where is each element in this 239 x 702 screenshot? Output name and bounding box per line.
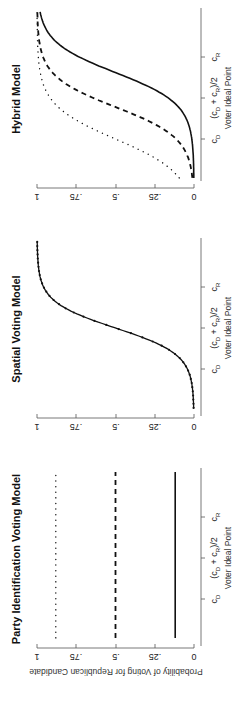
panel-hybrid: Hybrid Model 0 .25 .5 .75 1 cD (cD + cR)…	[10, 8, 233, 202]
data-point	[37, 262, 39, 264]
axis-title: Voter Ideal Point	[223, 296, 233, 359]
probability-axis-title: Probability of Voting for Republican Can…	[29, 667, 203, 677]
data-point	[174, 353, 176, 355]
data-point	[58, 303, 60, 305]
data-point	[141, 336, 143, 338]
data-point	[192, 390, 194, 392]
data-point	[187, 370, 189, 372]
data-point	[130, 332, 132, 334]
tick-label: .75	[70, 652, 83, 662]
data-point	[37, 253, 39, 255]
tick-label-cr: cR	[209, 512, 221, 522]
data-point	[191, 386, 193, 388]
tick-label: .25	[149, 192, 162, 202]
data-point	[45, 291, 47, 293]
data-point	[37, 266, 39, 268]
panel-party-identification: Party Identification Voting Model 0 .25 …	[10, 468, 233, 677]
data-point	[65, 307, 67, 309]
tick-label: 0	[191, 422, 196, 432]
plot-area	[36, 241, 195, 409]
tick-label: 0	[191, 652, 196, 662]
plot-area	[56, 472, 175, 638]
data-point	[37, 257, 39, 259]
panel-title: Party Identification Voting Model	[10, 474, 22, 644]
tick-label: .25	[149, 652, 162, 662]
voter-ideal-axis: cD (cD + cR)/2 cR Voter Ideal Point	[201, 8, 233, 181]
data-point	[189, 374, 191, 376]
data-point	[53, 299, 55, 301]
data-point	[152, 340, 154, 342]
data-point	[192, 403, 194, 405]
data-point	[168, 349, 170, 351]
data-point	[93, 320, 95, 322]
series-line-solid	[40, 12, 194, 178]
tick-label: .5	[112, 652, 120, 662]
tick-label: 1	[34, 422, 39, 432]
tick-label: 1	[34, 192, 39, 202]
panel-title: Spatial Voting Model	[10, 275, 22, 382]
data-point	[179, 357, 181, 359]
voter-ideal-axis: cD (cD + cR)/2 cR Voter Ideal Point	[201, 238, 233, 416]
data-point	[191, 382, 193, 384]
tick-label: .25	[149, 422, 162, 432]
data-point	[39, 274, 41, 276]
tick-label: .5	[112, 422, 120, 432]
tick-label-cd: cD	[209, 134, 221, 144]
data-point	[193, 407, 195, 409]
data-point	[73, 311, 75, 313]
tick-label-cr: cR	[209, 52, 221, 62]
tick-label-cd: cD	[209, 594, 221, 604]
tick-label: .5	[112, 192, 120, 202]
data-point	[40, 278, 42, 280]
series-line-dotted	[37, 12, 179, 178]
data-point	[161, 345, 163, 347]
panel-spatial: Spatial Voting Model 0 .25 .5 .75 1 cD (…	[10, 238, 233, 432]
series-line-all	[37, 242, 193, 408]
data-point	[43, 287, 45, 289]
axis-title: Voter Ideal Point	[223, 526, 233, 589]
tick-label-cd: cD	[209, 364, 221, 374]
data-point	[105, 324, 107, 326]
voter-ideal-axis: cD (cD + cR)/2 cR Voter Ideal Point	[201, 468, 233, 646]
axis-title: Voter Ideal Point	[223, 66, 233, 129]
tick-label: 0	[191, 192, 196, 202]
data-point	[38, 270, 40, 272]
data-point	[41, 282, 43, 284]
series-line-dashed	[37, 12, 192, 178]
tick-label-mid: (cD + cR)/2	[209, 77, 221, 118]
data-point	[118, 328, 120, 330]
tick-label: .75	[70, 422, 83, 432]
data-point	[185, 365, 187, 367]
plot-area	[37, 12, 194, 178]
data-point	[182, 361, 184, 363]
probability-axis: 0 .25 .5 .75 1	[34, 184, 196, 202]
data-point	[190, 378, 192, 380]
tick-label: 1	[34, 652, 39, 662]
tick-label-cr: cR	[209, 282, 221, 292]
data-point	[36, 249, 38, 251]
data-point	[36, 245, 38, 247]
data-point	[82, 316, 84, 318]
data-point	[48, 295, 50, 297]
figure: Hybrid Model 0 .25 .5 .75 1 cD (cD + cR)…	[0, 0, 239, 702]
data-point	[192, 394, 194, 396]
tick-label: .75	[70, 192, 83, 202]
probability-axis: 0 .25 .5 .75 1	[34, 414, 196, 432]
tick-label-mid: (cD + cR)/2	[209, 307, 221, 348]
data-point	[192, 399, 194, 401]
tick-label-mid: (cD + cR)/2	[209, 537, 221, 578]
probability-axis: 0 .25 .5 .75 1 Probability of Voting for…	[29, 644, 203, 677]
data-point	[36, 241, 38, 243]
panel-title: Hybrid Model	[10, 64, 22, 134]
